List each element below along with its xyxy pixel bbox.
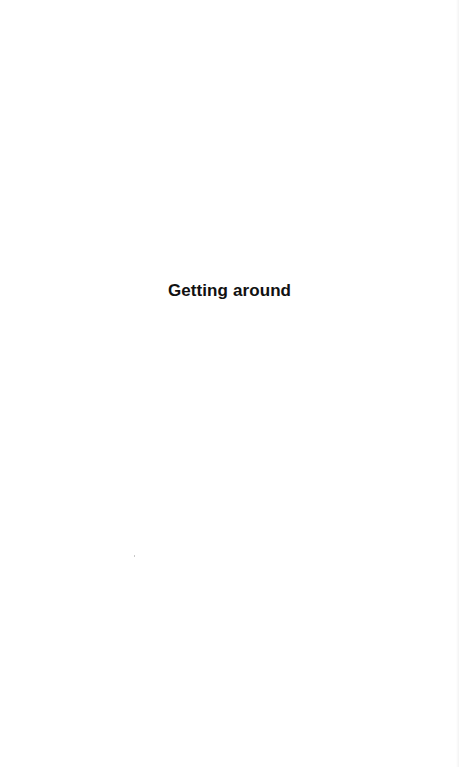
section-title: Getting around	[0, 279, 459, 303]
document-page: Getting around	[0, 0, 459, 767]
scan-artifact	[134, 555, 135, 557]
